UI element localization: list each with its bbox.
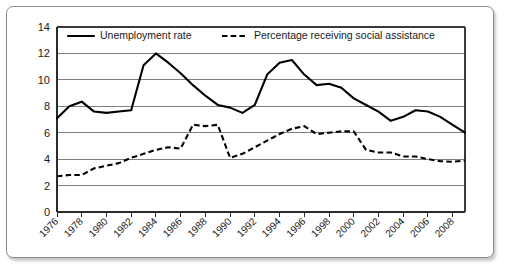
x-axis-tick-marks — [57, 212, 453, 217]
y-tick-label: 4 — [44, 153, 50, 165]
x-tick-label: 2002 — [358, 215, 382, 239]
x-tick-label: 1994 — [259, 215, 283, 239]
x-tick-label: 2006 — [408, 215, 432, 239]
plot-area-border — [57, 27, 465, 212]
legend-label: Percentage receiving social assistance — [254, 29, 435, 41]
chart-canvas: 02468101214 1976197819801982198419861988… — [0, 0, 508, 272]
y-tick-label: 6 — [44, 127, 50, 139]
x-tick-label: 1992 — [235, 215, 259, 239]
x-tick-label: 2008 — [433, 215, 457, 239]
x-tick-label: 2004 — [383, 215, 407, 239]
series-line-unemployment — [57, 53, 465, 132]
y-tick-label: 8 — [44, 100, 50, 112]
gridlines-group — [57, 27, 465, 186]
x-tick-label: 1990 — [210, 215, 234, 239]
data-series-group — [57, 53, 465, 176]
y-axis-tick-labels: 02468101214 — [38, 21, 50, 218]
y-tick-label: 0 — [44, 206, 50, 218]
x-tick-label: 1976 — [37, 215, 61, 239]
x-tick-label: 1980 — [86, 215, 110, 239]
x-tick-label: 1996 — [284, 215, 308, 239]
x-tick-label: 1986 — [161, 215, 185, 239]
y-tick-label: 12 — [38, 47, 50, 59]
x-axis-tick-labels: 1976197819801982198419861988199019921994… — [37, 215, 456, 239]
x-tick-label: 1998 — [309, 215, 333, 239]
x-tick-label: 1978 — [62, 215, 86, 239]
chart-legend: Unemployment ratePercentage receiving so… — [68, 29, 435, 41]
y-tick-label: 2 — [44, 180, 50, 192]
y-tick-label: 14 — [38, 21, 50, 33]
x-tick-label: 1984 — [136, 215, 160, 239]
x-tick-label: 1988 — [185, 215, 209, 239]
x-tick-label: 1982 — [111, 215, 135, 239]
x-tick-label: 2000 — [334, 215, 358, 239]
y-tick-label: 10 — [38, 74, 50, 86]
line-chart: 02468101214 1976197819801982198419861988… — [0, 0, 508, 272]
legend-label: Unemployment rate — [100, 29, 192, 41]
